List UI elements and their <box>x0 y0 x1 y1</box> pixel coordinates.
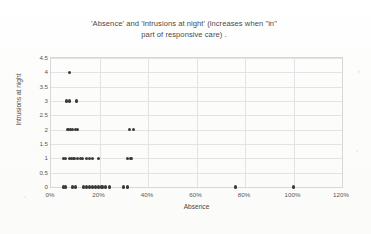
data-point <box>126 185 129 188</box>
data-point <box>64 157 67 160</box>
chart-title: 'Absence' and 'Intrusions at night' (inc… <box>34 18 334 40</box>
x-axis-tick-label: 60% <box>181 191 211 198</box>
y-axis-tick-label: 4.5 <box>26 54 48 61</box>
data-point <box>97 157 100 160</box>
y-axis-tick-label: 3.5 <box>26 82 48 89</box>
chart-page: 'Absence' and 'Intrusions at night' (inc… <box>0 0 371 234</box>
y-axis-tick-label: 4 <box>26 68 48 75</box>
gridline-vertical <box>148 58 149 187</box>
scan-speckle <box>24 196 26 198</box>
x-axis-tick-label: 120% <box>326 191 356 198</box>
data-point <box>292 185 295 188</box>
x-axis-tick-label: 20% <box>84 191 114 198</box>
y-axis-tick-label: 0.5 <box>26 168 48 175</box>
y-axis-tick-label: 2.5 <box>26 111 48 118</box>
x-axis-tick-label: 100% <box>278 191 308 198</box>
scan-speckle <box>356 150 358 152</box>
gridline-vertical <box>100 58 101 187</box>
gridline-vertical <box>197 58 198 187</box>
x-axis-tick-labels: 0%20%40%60%80%100%120% <box>50 191 343 201</box>
y-axis-tick-label: 1 <box>26 154 48 161</box>
data-point <box>91 157 94 160</box>
y-axis-tick-label: 3 <box>26 97 48 104</box>
data-point <box>68 71 71 74</box>
data-point <box>81 157 84 160</box>
y-axis-label: Intrusions at night <box>15 60 22 140</box>
gridline-vertical <box>294 58 295 187</box>
data-point <box>108 185 111 188</box>
chart-title-line-1: 'Absence' and 'Intrusions at night' (inc… <box>34 18 334 29</box>
scan-speckle <box>358 70 360 73</box>
data-point <box>68 99 71 102</box>
x-axis-tick-label: 0% <box>35 191 65 198</box>
y-axis-tick-label: 1.5 <box>26 140 48 147</box>
y-axis-tick-labels: 00.511.522.533.544.5 <box>24 57 48 188</box>
gridline-vertical <box>245 58 246 187</box>
chart-title-line-2: part of responsive care) . <box>34 29 334 40</box>
data-point <box>128 128 131 131</box>
y-axis-tick-label: 0 <box>26 183 48 190</box>
x-axis-tick-label: 80% <box>229 191 259 198</box>
data-point <box>132 128 135 131</box>
x-axis-tick-label: 40% <box>132 191 162 198</box>
y-axis-tick-label: 2 <box>26 125 48 132</box>
x-axis-label: Absence <box>50 203 343 210</box>
data-point <box>75 99 78 102</box>
data-point <box>76 128 79 131</box>
data-point <box>129 157 132 160</box>
data-point <box>234 185 237 188</box>
data-point <box>74 185 77 188</box>
data-point <box>122 185 125 188</box>
data-point <box>64 185 67 188</box>
plot-area <box>50 57 343 188</box>
data-point <box>104 185 107 188</box>
